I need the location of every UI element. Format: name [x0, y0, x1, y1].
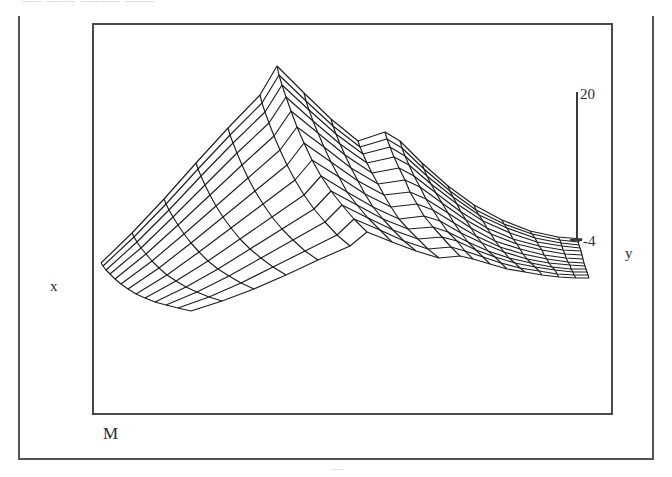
scanned-header-text: —— ——— ———— ——— [22, 0, 322, 6]
axis-label-right: y [625, 246, 633, 261]
z-scale-bar [576, 92, 578, 240]
axis-label-bottom: M [103, 425, 118, 442]
z-scale-min-label: -4 [583, 234, 596, 249]
z-scale-max-label: 20 [580, 87, 595, 102]
figure-page: —— ——— ———— ——— [0, 0, 672, 477]
scanned-footer-text: —— [330, 465, 352, 471]
surface-mesh-plot [92, 23, 613, 415]
axis-label-left: x [50, 279, 58, 294]
z-scale-bottom-tick [570, 239, 582, 241]
